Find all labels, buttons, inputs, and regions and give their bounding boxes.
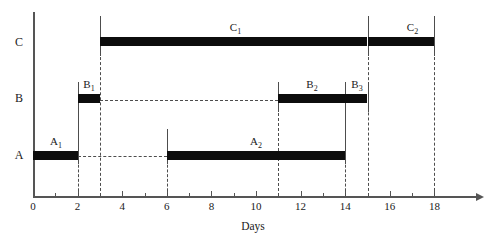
x-axis-title: Days [223,220,283,232]
vline-day-14-dashed [345,160,346,196]
x-tick-label-10: 10 [246,200,266,212]
vline-day-15-dashed [368,52,369,196]
vline-day-15-solid [368,16,369,56]
task-bar-b2[interactable] [278,94,345,103]
task-bar-c2[interactable] [368,37,435,46]
row-label-c: C [10,35,28,50]
connector-b1-b2 [100,100,278,101]
x-tick-label-16: 16 [380,200,400,212]
x-tick-16 [390,191,391,197]
x-tick-4 [122,191,123,197]
connector-a1-a2 [78,156,167,157]
x-tick-8 [211,191,212,197]
task-bar-b1[interactable] [78,94,100,103]
x-tick-12 [301,191,302,197]
vline-day-3-solid [100,16,101,56]
task-label-c2: C2 [390,21,435,36]
task-bar-a2[interactable] [167,151,345,160]
x-tick-9 [234,193,235,197]
task-bar-a1[interactable] [33,151,78,160]
task-label-c1: C1 [213,21,258,36]
x-tick-label-0: 0 [23,200,43,212]
vline-day-18-dashed [434,52,435,196]
x-tick-1 [55,193,56,197]
row-label-a: A [10,148,28,163]
x-tick-label-2: 2 [68,200,88,212]
gantt-chart: C B A 0 2 4 6 8 10 12 14 16 18 Days [0,0,502,242]
x-tick-0 [33,191,34,197]
vline-day-3-dashed [100,52,101,196]
x-tick-label-4: 4 [112,200,132,212]
x-tick-7 [189,193,190,197]
task-label-b1: B1 [70,78,108,93]
x-tick-label-8: 8 [201,200,221,212]
y-axis-line [33,12,35,196]
task-label-a2: A2 [236,135,276,150]
row-label-b: B [10,91,28,106]
task-bar-b3[interactable] [345,94,367,103]
x-tick-label-12: 12 [291,200,311,212]
x-axis-arrow [476,193,484,201]
x-tick-17 [412,193,413,197]
x-tick-label-14: 14 [335,200,355,212]
x-tick-5 [145,193,146,197]
task-bar-c1[interactable] [100,37,368,46]
x-tick-10 [256,191,257,197]
vline-day-2-dashed [78,160,79,196]
x-tick-label-6: 6 [157,200,177,212]
task-label-a1: A1 [37,135,75,150]
x-tick-label-18: 18 [424,200,444,212]
x-tick-13 [323,193,324,197]
task-label-b2: B2 [291,78,333,93]
task-label-b3: B3 [338,78,376,93]
vline-day-6-dashed [167,160,168,196]
